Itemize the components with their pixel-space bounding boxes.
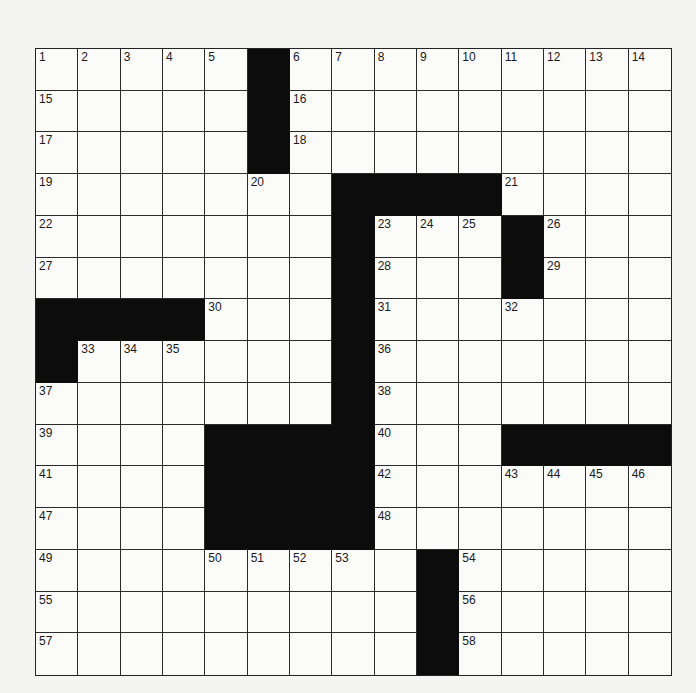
crossword-cell[interactable] xyxy=(417,508,459,550)
crossword-cell[interactable]: 29 xyxy=(544,258,586,300)
crossword-cell[interactable] xyxy=(163,633,205,675)
crossword-cell[interactable] xyxy=(121,91,163,133)
crossword-cell[interactable]: 17 xyxy=(36,132,78,174)
crossword-cell[interactable]: 16 xyxy=(290,91,332,133)
crossword-cell[interactable] xyxy=(459,425,501,467)
crossword-cell[interactable] xyxy=(629,508,671,550)
crossword-cell[interactable] xyxy=(629,258,671,300)
crossword-cell[interactable] xyxy=(332,91,374,133)
crossword-cell[interactable]: 9 xyxy=(417,49,459,91)
crossword-cell[interactable] xyxy=(78,216,120,258)
crossword-cell[interactable] xyxy=(290,383,332,425)
crossword-cell[interactable]: 38 xyxy=(375,383,417,425)
crossword-cell[interactable] xyxy=(586,383,628,425)
crossword-cell[interactable]: 1 xyxy=(36,49,78,91)
crossword-cell[interactable] xyxy=(586,299,628,341)
crossword-cell[interactable]: 44 xyxy=(544,466,586,508)
crossword-cell[interactable] xyxy=(332,132,374,174)
crossword-cell[interactable] xyxy=(459,299,501,341)
crossword-cell[interactable]: 12 xyxy=(544,49,586,91)
crossword-cell[interactable] xyxy=(459,341,501,383)
crossword-cell[interactable]: 2 xyxy=(78,49,120,91)
crossword-cell[interactable] xyxy=(586,216,628,258)
crossword-cell[interactable] xyxy=(586,341,628,383)
crossword-cell[interactable] xyxy=(205,91,247,133)
crossword-cell[interactable] xyxy=(502,550,544,592)
crossword-cell[interactable] xyxy=(586,592,628,634)
crossword-cell[interactable] xyxy=(205,341,247,383)
crossword-cell[interactable] xyxy=(78,132,120,174)
crossword-cell[interactable]: 22 xyxy=(36,216,78,258)
crossword-cell[interactable] xyxy=(375,91,417,133)
crossword-cell[interactable] xyxy=(290,299,332,341)
crossword-cell[interactable] xyxy=(629,383,671,425)
crossword-cell[interactable] xyxy=(417,299,459,341)
crossword-cell[interactable] xyxy=(375,633,417,675)
crossword-cell[interactable] xyxy=(544,592,586,634)
crossword-cell[interactable] xyxy=(248,633,290,675)
crossword-cell[interactable] xyxy=(586,633,628,675)
crossword-cell[interactable]: 42 xyxy=(375,466,417,508)
crossword-cell[interactable]: 54 xyxy=(459,550,501,592)
crossword-cell[interactable] xyxy=(332,592,374,634)
crossword-cell[interactable] xyxy=(290,258,332,300)
crossword-cell[interactable] xyxy=(544,91,586,133)
crossword-cell[interactable] xyxy=(586,91,628,133)
crossword-cell[interactable] xyxy=(586,258,628,300)
crossword-cell[interactable] xyxy=(121,383,163,425)
crossword-cell[interactable] xyxy=(459,508,501,550)
crossword-cell[interactable]: 10 xyxy=(459,49,501,91)
crossword-cell[interactable] xyxy=(205,633,247,675)
crossword-cell[interactable] xyxy=(163,132,205,174)
crossword-cell[interactable] xyxy=(248,341,290,383)
crossword-cell[interactable]: 33 xyxy=(78,341,120,383)
crossword-cell[interactable] xyxy=(163,174,205,216)
crossword-cell[interactable]: 34 xyxy=(121,341,163,383)
crossword-cell[interactable] xyxy=(121,466,163,508)
crossword-cell[interactable] xyxy=(459,91,501,133)
crossword-cell[interactable]: 48 xyxy=(375,508,417,550)
crossword-cell[interactable]: 7 xyxy=(332,49,374,91)
crossword-cell[interactable] xyxy=(417,341,459,383)
crossword-cell[interactable] xyxy=(205,258,247,300)
crossword-cell[interactable] xyxy=(459,466,501,508)
crossword-cell[interactable]: 4 xyxy=(163,49,205,91)
crossword-cell[interactable] xyxy=(417,91,459,133)
crossword-cell[interactable] xyxy=(586,550,628,592)
crossword-cell[interactable] xyxy=(629,341,671,383)
crossword-cell[interactable] xyxy=(459,258,501,300)
crossword-cell[interactable]: 15 xyxy=(36,91,78,133)
crossword-cell[interactable] xyxy=(290,216,332,258)
crossword-cell[interactable] xyxy=(417,258,459,300)
crossword-cell[interactable]: 24 xyxy=(417,216,459,258)
crossword-cell[interactable] xyxy=(502,633,544,675)
crossword-cell[interactable] xyxy=(248,216,290,258)
crossword-cell[interactable] xyxy=(121,425,163,467)
crossword-cell[interactable] xyxy=(417,466,459,508)
crossword-cell[interactable] xyxy=(121,216,163,258)
crossword-cell[interactable]: 14 xyxy=(629,49,671,91)
crossword-cell[interactable] xyxy=(78,425,120,467)
crossword-cell[interactable]: 18 xyxy=(290,132,332,174)
crossword-cell[interactable] xyxy=(121,633,163,675)
crossword-cell[interactable]: 39 xyxy=(36,425,78,467)
crossword-cell[interactable] xyxy=(629,91,671,133)
crossword-cell[interactable] xyxy=(163,216,205,258)
crossword-cell[interactable] xyxy=(629,216,671,258)
crossword-cell[interactable] xyxy=(163,383,205,425)
crossword-cell[interactable]: 28 xyxy=(375,258,417,300)
crossword-cell[interactable]: 50 xyxy=(205,550,247,592)
crossword-cell[interactable] xyxy=(544,341,586,383)
crossword-cell[interactable]: 5 xyxy=(205,49,247,91)
crossword-cell[interactable] xyxy=(544,299,586,341)
crossword-cell[interactable]: 43 xyxy=(502,466,544,508)
crossword-cell[interactable]: 6 xyxy=(290,49,332,91)
crossword-cell[interactable]: 41 xyxy=(36,466,78,508)
crossword-cell[interactable] xyxy=(586,132,628,174)
crossword-cell[interactable]: 21 xyxy=(502,174,544,216)
crossword-cell[interactable] xyxy=(121,174,163,216)
crossword-cell[interactable] xyxy=(629,174,671,216)
crossword-cell[interactable] xyxy=(544,508,586,550)
crossword-cell[interactable] xyxy=(248,383,290,425)
crossword-cell[interactable]: 27 xyxy=(36,258,78,300)
